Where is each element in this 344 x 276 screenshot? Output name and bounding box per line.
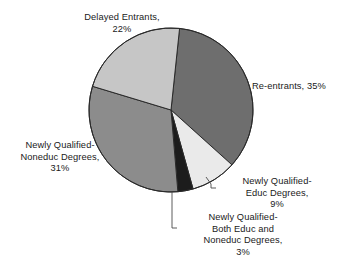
- slice-label-educ-degrees-line1: Newly Qualified-: [216, 176, 338, 188]
- slice-label-both-degrees-line4: 3%: [178, 247, 308, 259]
- slice-label-noneduc-degrees-line1: Newly Qualified-: [4, 140, 116, 152]
- slice-label-delayed-entrants-line1: Delayed Entrants,: [58, 12, 186, 24]
- slice-label-educ-degrees: Newly Qualified- Educ Degrees, 9%: [216, 176, 338, 211]
- slice-label-delayed-entrants: Delayed Entrants, 22%: [58, 12, 186, 35]
- slice-label-re-entrants-line1: Re-entrants, 35%: [252, 81, 344, 93]
- leader-line-both-degrees: [172, 192, 177, 228]
- slice-label-re-entrants: Re-entrants, 35%: [252, 81, 344, 93]
- slice-label-both-degrees-line3: Noneduc Degrees,: [178, 235, 308, 247]
- slice-label-delayed-entrants-line2: 22%: [58, 24, 186, 36]
- slice-label-noneduc-degrees-line3: 31%: [4, 163, 116, 175]
- slice-label-noneduc-degrees-line2: Noneduc Degrees,: [4, 152, 116, 164]
- slice-label-both-degrees-line2: Both Educ and: [178, 224, 308, 236]
- slice-label-educ-degrees-line2: Educ Degrees,: [216, 188, 338, 200]
- slice-label-both-degrees: Newly Qualified- Both Educ and Noneduc D…: [178, 212, 308, 258]
- slice-label-both-degrees-line1: Newly Qualified-: [178, 212, 308, 224]
- slice-label-noneduc-degrees: Newly Qualified- Noneduc Degrees, 31%: [4, 140, 116, 175]
- pie-chart-figure: Delayed Entrants, 22% Re-entrants, 35% N…: [0, 0, 344, 276]
- slice-label-educ-degrees-line3: 9%: [216, 199, 338, 211]
